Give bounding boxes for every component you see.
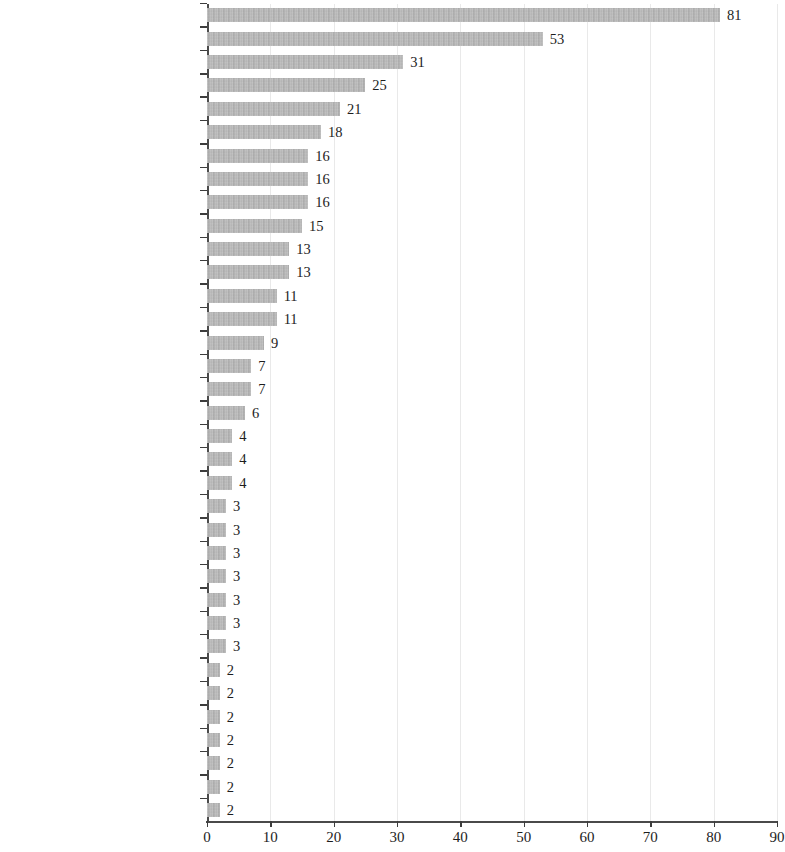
bar-value-label: 2 xyxy=(227,803,234,818)
bar xyxy=(207,803,220,817)
x-axis-tick xyxy=(270,821,271,827)
y-axis-tick xyxy=(200,330,207,331)
y-axis-tick xyxy=(200,377,207,378)
bar xyxy=(207,172,308,186)
bar xyxy=(207,476,232,490)
y-axis-tick xyxy=(200,190,207,191)
y-axis-tick xyxy=(200,307,207,308)
bar-row: Luxembourg4 xyxy=(207,471,777,494)
bar-value-label: 13 xyxy=(296,265,311,280)
bar-value-label: 15 xyxy=(309,218,324,233)
bar-value-label: 11 xyxy=(284,289,298,304)
x-axis-tick xyxy=(650,821,651,827)
bar-value-label: 6 xyxy=(252,405,259,420)
bar-value-label: 3 xyxy=(233,522,240,537)
x-axis-tick-label: 50 xyxy=(516,830,531,845)
bar-row: Turkey13 xyxy=(207,261,777,284)
x-axis-tick-label: 20 xyxy=(326,830,341,845)
y-axis-tick xyxy=(200,634,207,635)
y-axis-tick xyxy=(200,704,207,705)
y-axis-tick xyxy=(200,470,207,471)
x-axis-tick-label: 70 xyxy=(643,830,658,845)
bar-value-label: 4 xyxy=(239,429,246,444)
y-axis-tick xyxy=(200,424,207,425)
bar-row: Lithuania9 xyxy=(207,331,777,354)
bar-value-label: 2 xyxy=(227,779,234,794)
y-axis-tick xyxy=(200,26,207,27)
bar-value-label: 3 xyxy=(233,499,240,514)
x-axis-tick-label: 80 xyxy=(706,830,721,845)
bar xyxy=(207,593,226,607)
bar-value-label: 16 xyxy=(315,148,330,163)
bar-row: Netherlands3 xyxy=(207,542,777,565)
bar-row: Austria7 xyxy=(207,355,777,378)
bar xyxy=(207,663,220,677)
bar-value-label: 2 xyxy=(227,756,234,771)
bar xyxy=(207,382,251,396)
y-axis-tick xyxy=(200,774,207,775)
bar-row: China7 xyxy=(207,378,777,401)
bar-row: Portugal3 xyxy=(207,565,777,588)
bar-row: Japan2 xyxy=(207,752,777,775)
x-axis-tick xyxy=(207,821,208,827)
y-axis-tick xyxy=(200,798,207,799)
bar-value-label: 9 xyxy=(271,335,278,350)
bar-value-label: 2 xyxy=(227,709,234,724)
bar-value-label: 4 xyxy=(239,476,246,491)
x-axis-tick-label: 30 xyxy=(390,830,405,845)
bar xyxy=(207,639,226,653)
gridline-90 xyxy=(777,4,778,822)
y-axis-tick xyxy=(200,143,207,144)
bar xyxy=(207,32,543,46)
bar-value-label: 53 xyxy=(550,31,565,46)
y-axis-tick xyxy=(200,283,207,284)
bar-row: Germany53 xyxy=(207,27,777,50)
bar-value-label: 3 xyxy=(233,546,240,561)
bar-value-label: 13 xyxy=(296,242,311,257)
bar xyxy=(207,149,308,163)
y-axis-tick xyxy=(200,167,207,168)
bar xyxy=(207,756,220,770)
bar-row: Scotland3 xyxy=(207,588,777,611)
y-axis-tick xyxy=(200,260,207,261)
y-axis-tick xyxy=(200,237,207,238)
bar-value-label: 81 xyxy=(727,8,742,23)
x-axis-tick-label: 10 xyxy=(263,830,278,845)
bar-value-label: 21 xyxy=(347,102,362,117)
x-axis-tick xyxy=(397,821,398,827)
bar xyxy=(207,616,226,630)
bar-value-label: 3 xyxy=(233,592,240,607)
y-axis-tick xyxy=(200,354,207,355)
y-axis-tick xyxy=(200,587,207,588)
x-axis-line xyxy=(206,821,778,823)
bar-row: Latvia18 xyxy=(207,121,777,144)
bar xyxy=(207,569,226,583)
bar-row: Egypt6 xyxy=(207,401,777,424)
bar xyxy=(207,125,321,139)
bar xyxy=(207,546,226,560)
bar xyxy=(207,8,720,22)
y-axis-tick xyxy=(200,541,207,542)
x-axis-tick-label: 40 xyxy=(453,830,468,845)
bar xyxy=(207,336,264,350)
bar xyxy=(207,452,232,466)
bar-row: Iran2 xyxy=(207,729,777,752)
bar-row: Cyprus4 xyxy=(207,425,777,448)
y-axis-tick xyxy=(200,751,207,752)
y-axis-tick xyxy=(200,564,207,565)
y-axis-tick xyxy=(200,657,207,658)
bar-row: Hungary25 xyxy=(207,74,777,97)
y-axis-tick xyxy=(200,73,207,74)
bar-row: Colombia3 xyxy=(207,495,777,518)
bar xyxy=(207,78,365,92)
x-axis-tick-label: 90 xyxy=(770,830,785,845)
bar-row: France81 xyxy=(207,4,777,27)
x-axis-tick xyxy=(524,821,525,827)
bar-row: Spain3 xyxy=(207,612,777,635)
x-axis-tick-label: 60 xyxy=(580,830,595,845)
bar-row: Bulgaria15 xyxy=(207,214,777,237)
bar-row: Bolivia2 xyxy=(207,658,777,681)
y-axis-tick xyxy=(200,494,207,495)
bar-value-label: 2 xyxy=(227,663,234,678)
